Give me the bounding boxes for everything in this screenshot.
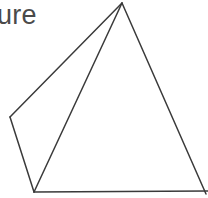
figure-screenshot: ure [0, 0, 208, 198]
pyramid-edge-apex-to-base-right [122, 3, 206, 194]
pyramid-edge-apex-to-base-front [34, 3, 122, 192]
pyramid-edge-apex-to-base-left [10, 3, 122, 117]
pyramid-edge-base-left-to-base-front [10, 117, 34, 192]
pyramid-diagram [0, 0, 208, 198]
pyramid-edge-base-front-to-base-right [34, 191, 208, 192]
